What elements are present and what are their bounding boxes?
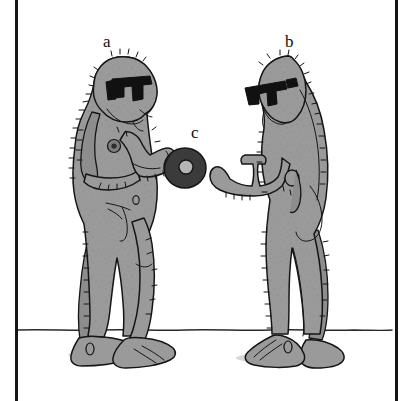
- right-hominid-figure: [210, 50, 345, 368]
- figure-panel: .ink { fill: none; stroke: #151515; stro…: [0, 0, 413, 401]
- hominid-exchange-illustration: .ink { fill: none; stroke: #151515; stro…: [0, 0, 413, 401]
- figure-label-a: a: [103, 33, 111, 50]
- left-hominid-figure: [60, 49, 180, 368]
- figure-label-c: c: [191, 124, 199, 141]
- ground-line: [18, 330, 392, 331]
- panel-left-rule: [15, 0, 18, 401]
- figure-label-b: b: [285, 33, 294, 50]
- left-figure-chest-mark-center: [111, 143, 116, 148]
- dark-ring-object: [164, 148, 206, 188]
- left-figure-front-foot: [113, 337, 176, 368]
- right-figure-back-foot: [300, 340, 344, 368]
- right-figure-front-foot: [245, 335, 304, 367]
- ring-hole: [179, 160, 193, 174]
- panel-right-rule: [395, 0, 398, 401]
